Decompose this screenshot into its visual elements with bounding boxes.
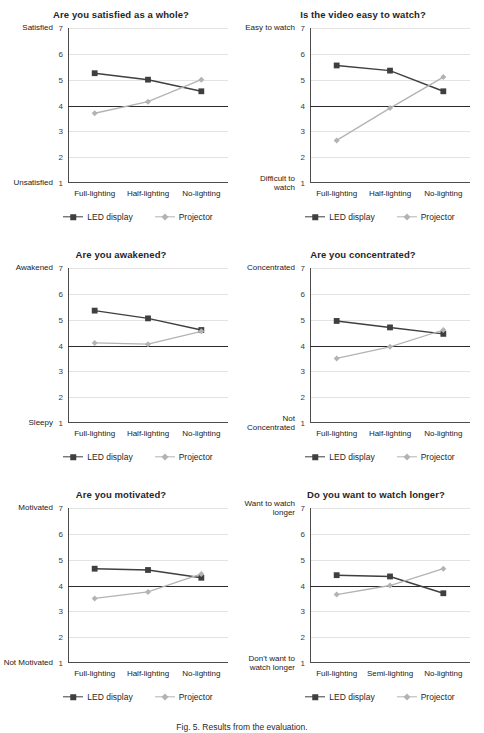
y-tick-label: 3 bbox=[59, 607, 63, 616]
data-point-marker bbox=[387, 325, 393, 331]
data-point-marker bbox=[145, 341, 151, 347]
plot-area: 1234567MotivatedNot MotivatedFull-lighti… bbox=[68, 508, 228, 663]
y-tick-label: 4 bbox=[301, 581, 305, 590]
legend-label: LED display bbox=[329, 212, 374, 222]
legend-item-led-display[interactable]: LED display bbox=[63, 212, 132, 222]
data-point-marker bbox=[387, 344, 393, 350]
y-tick-label: 5 bbox=[59, 75, 63, 84]
y-axis-label-bottom: Sleepy bbox=[29, 418, 53, 427]
legend-label: Projector bbox=[421, 212, 455, 222]
y-tick-label: 2 bbox=[59, 633, 63, 642]
x-tick-label: No-lighting bbox=[182, 669, 220, 678]
y-tick-label: 7 bbox=[59, 24, 63, 33]
x-tick-label: Half-lighting bbox=[127, 189, 169, 198]
legend-label: Projector bbox=[179, 452, 213, 462]
chart-legend: LED displayProjector bbox=[242, 692, 484, 702]
y-axis-label-top: Concentrated bbox=[247, 263, 295, 272]
y-tick-label: 5 bbox=[59, 315, 63, 324]
y-tick-label: 4 bbox=[59, 581, 63, 590]
legend-label: Projector bbox=[179, 212, 213, 222]
y-axis-label-bottom: Unsatisfied bbox=[13, 178, 53, 187]
legend-square-marker-icon bbox=[305, 693, 325, 702]
y-tick-label: 1 bbox=[59, 659, 63, 668]
y-tick-label: 6 bbox=[301, 49, 305, 58]
legend-item-led-display[interactable]: LED display bbox=[63, 692, 132, 702]
y-tick-label: 3 bbox=[301, 127, 305, 136]
legend-square-marker-icon bbox=[63, 693, 83, 702]
y-tick-label: 6 bbox=[59, 529, 63, 538]
legend-item-projector[interactable]: Projector bbox=[397, 692, 455, 702]
chart-panel: Are you motivated?1234567MotivatedNot Mo… bbox=[0, 480, 242, 720]
y-axis-label-top: Motivated bbox=[18, 503, 53, 512]
y-axis-label-bottom: Not Motivated bbox=[0, 658, 53, 667]
legend-item-projector[interactable]: Projector bbox=[155, 692, 213, 702]
legend-item-led-display[interactable]: LED display bbox=[63, 452, 132, 462]
data-point-marker bbox=[440, 566, 446, 572]
y-tick-label: 5 bbox=[301, 555, 305, 564]
series-layer bbox=[68, 508, 228, 663]
y-tick-label: 6 bbox=[301, 289, 305, 298]
y-tick-label: 2 bbox=[59, 153, 63, 162]
legend-item-led-display[interactable]: LED display bbox=[305, 452, 374, 462]
y-axis-label-top: Want to watch longer bbox=[237, 499, 295, 517]
plot-area: 1234567Want to watch longerDon't want to… bbox=[310, 508, 470, 663]
data-point-marker bbox=[198, 88, 204, 94]
figure-evaluation-results: Are you satisfied as a whole?1234567Sati… bbox=[0, 0, 484, 733]
chart-legend: LED displayProjector bbox=[242, 212, 484, 222]
chart-title: Is the video easy to watch? bbox=[242, 9, 484, 20]
y-axis-label-bottom: Not Concentrated bbox=[237, 414, 295, 432]
x-tick-label: Full-lighting bbox=[316, 669, 357, 678]
legend-item-projector[interactable]: Projector bbox=[155, 452, 213, 462]
y-tick-label: 3 bbox=[301, 367, 305, 376]
chart-title: Are you motivated? bbox=[0, 489, 242, 500]
legend-item-led-display[interactable]: LED display bbox=[305, 212, 374, 222]
chart-legend: LED displayProjector bbox=[0, 452, 242, 462]
y-tick-label: 7 bbox=[301, 24, 305, 33]
y-tick-label: 3 bbox=[59, 367, 63, 376]
data-point-marker bbox=[334, 572, 340, 578]
chart-title: Are you awakened? bbox=[0, 249, 242, 260]
legend-diamond-marker-icon bbox=[155, 213, 175, 222]
legend-diamond-marker-icon bbox=[397, 693, 417, 702]
chart-title: Are you satisfied as a whole? bbox=[0, 9, 242, 20]
chart-title: Are you concentrated? bbox=[242, 249, 484, 260]
x-tick-label: No-lighting bbox=[424, 189, 462, 198]
y-tick-label: 2 bbox=[301, 153, 305, 162]
y-tick-label: 5 bbox=[301, 75, 305, 84]
data-point-marker bbox=[440, 88, 446, 94]
data-point-marker bbox=[440, 590, 446, 596]
series-layer bbox=[310, 508, 470, 663]
chart-grid: Are you satisfied as a whole?1234567Sati… bbox=[0, 0, 484, 720]
series-layer bbox=[68, 268, 228, 423]
data-point-marker bbox=[334, 592, 340, 598]
legend-item-projector[interactable]: Projector bbox=[397, 452, 455, 462]
legend-label: Projector bbox=[179, 692, 213, 702]
legend-item-projector[interactable]: Projector bbox=[397, 212, 455, 222]
y-tick-label: 2 bbox=[59, 393, 63, 402]
y-tick-label: 2 bbox=[301, 633, 305, 642]
legend-item-led-display[interactable]: LED display bbox=[305, 692, 374, 702]
data-point-marker bbox=[145, 77, 151, 83]
data-point-marker bbox=[387, 574, 393, 580]
x-tick-label: Full-lighting bbox=[74, 669, 115, 678]
data-point-marker bbox=[387, 68, 393, 74]
chart-legend: LED displayProjector bbox=[242, 452, 484, 462]
legend-item-projector[interactable]: Projector bbox=[155, 212, 213, 222]
data-point-marker bbox=[92, 595, 98, 601]
y-tick-label: 7 bbox=[301, 264, 305, 273]
y-axis-label-top: Awakened bbox=[16, 263, 53, 272]
y-axis-label-top: Satisfied bbox=[22, 23, 53, 32]
y-tick-label: 2 bbox=[301, 393, 305, 402]
legend-square-marker-icon bbox=[63, 213, 83, 222]
series-layer bbox=[310, 28, 470, 183]
legend-label: Projector bbox=[421, 692, 455, 702]
x-tick-label: No-lighting bbox=[182, 189, 220, 198]
y-tick-label: 5 bbox=[59, 555, 63, 564]
data-point-marker bbox=[334, 355, 340, 361]
data-point-marker bbox=[92, 110, 98, 116]
y-tick-label: 4 bbox=[59, 101, 63, 110]
chart-legend: LED displayProjector bbox=[0, 212, 242, 222]
legend-label: LED display bbox=[329, 692, 374, 702]
data-point-marker bbox=[92, 308, 98, 314]
data-point-marker bbox=[92, 566, 98, 572]
